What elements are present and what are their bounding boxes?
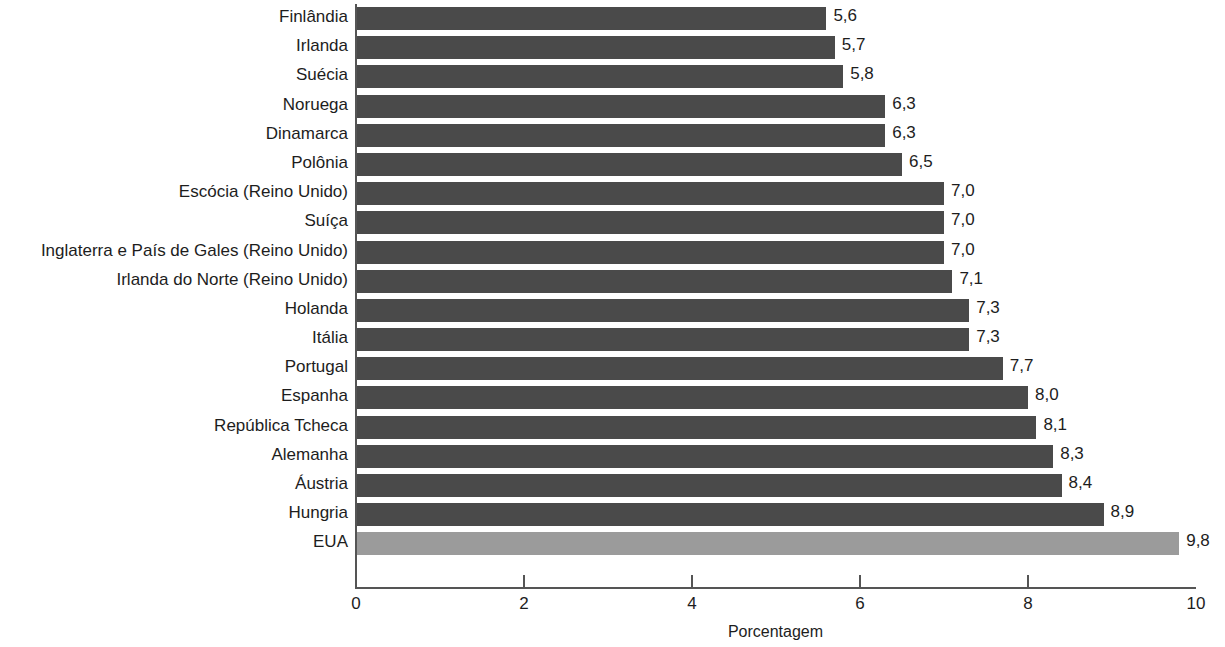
category-label: Áustria [295, 471, 348, 500]
bar-row: Áustria8,4 [0, 471, 1225, 500]
bar-value-label: 6,3 [885, 122, 916, 144]
category-label: Irlanda [296, 33, 348, 62]
bar-value-label: 7,0 [944, 180, 975, 202]
bar-container [356, 357, 1003, 380]
bar-value-label: 8,4 [1062, 472, 1093, 494]
bar-container [356, 65, 843, 88]
bar-value-label: 6,3 [885, 93, 916, 115]
bar-row: Hungria8,9 [0, 500, 1225, 529]
bar-row: Espanha8,0 [0, 383, 1225, 412]
x-axis-tick [691, 575, 693, 588]
bar-value-label: 7,0 [944, 239, 975, 261]
bar-container [356, 474, 1062, 497]
x-axis-tick-label: 2 [519, 594, 528, 614]
bar-container [356, 7, 826, 30]
category-label: Holanda [285, 296, 348, 325]
bar [356, 241, 944, 264]
bar [356, 124, 885, 147]
bar-value-label: 7,7 [1003, 355, 1034, 377]
bar-row: Escócia (Reino Unido)7,0 [0, 179, 1225, 208]
category-label: Finlândia [279, 4, 348, 33]
bar-value-label: 9,8 [1179, 530, 1210, 552]
category-label: EUA [313, 529, 348, 558]
bar [356, 328, 969, 351]
bar [356, 95, 885, 118]
bar-value-label: 8,9 [1104, 501, 1135, 523]
bar-container [356, 386, 1028, 409]
bar-row: Portugal7,7 [0, 354, 1225, 383]
bar-value-label: 8,0 [1028, 384, 1059, 406]
bar-value-label: 5,6 [826, 5, 857, 27]
x-axis-tick-label: 8 [1023, 594, 1032, 614]
bar [356, 270, 952, 293]
bar-container [356, 36, 835, 59]
bar [356, 36, 835, 59]
x-axis-tick [1027, 575, 1029, 588]
bar-container [356, 182, 944, 205]
bar [356, 299, 969, 322]
bar [356, 445, 1053, 468]
category-label: Suíça [305, 208, 348, 237]
bar-container [356, 211, 944, 234]
bar-row: Suécia5,8 [0, 62, 1225, 91]
bar-container [356, 328, 969, 351]
x-axis-tick [859, 575, 861, 588]
bar-container [356, 416, 1036, 439]
category-label: Espanha [281, 383, 348, 412]
category-label: Hungria [288, 500, 348, 529]
bar-row: República Tcheca8,1 [0, 413, 1225, 442]
category-label: Suécia [296, 62, 348, 91]
bar-container [356, 270, 952, 293]
bar-rows: Finlândia5,6Irlanda5,7Suécia5,8Noruega6,… [0, 4, 1225, 559]
category-label: Dinamarca [266, 121, 348, 150]
category-label: Portugal [285, 354, 348, 383]
bar-row: Suíça7,0 [0, 208, 1225, 237]
category-label: Noruega [283, 92, 348, 121]
y-axis-line [355, 4, 357, 588]
bar [356, 182, 944, 205]
bar [356, 357, 1003, 380]
bar-value-label: 8,3 [1053, 443, 1084, 465]
bar-value-label: 7,0 [944, 209, 975, 231]
bar-row: Holanda7,3 [0, 296, 1225, 325]
bar-row: Alemanha8,3 [0, 442, 1225, 471]
bar-row: Itália7,3 [0, 325, 1225, 354]
bar-chart: Finlândia5,6Irlanda5,7Suécia5,8Noruega6,… [0, 0, 1225, 647]
x-axis-tick [523, 575, 525, 588]
bar-value-label: 7,3 [969, 297, 1000, 319]
bar [356, 65, 843, 88]
x-axis-tick-label: 4 [687, 594, 696, 614]
x-axis-title: Porcentagem [0, 623, 1225, 641]
bar [356, 153, 902, 176]
bar [356, 7, 826, 30]
category-label: Irlanda do Norte (Reino Unido) [116, 267, 348, 296]
bar-value-label: 7,1 [952, 268, 983, 290]
bar [356, 474, 1062, 497]
bar [356, 211, 944, 234]
bar-container [356, 124, 885, 147]
bar-container [356, 299, 969, 322]
bar-container [356, 532, 1179, 555]
bar-row: Irlanda5,7 [0, 33, 1225, 62]
bar-row: Irlanda do Norte (Reino Unido)7,1 [0, 267, 1225, 296]
bar [356, 416, 1036, 439]
bar-container [356, 153, 902, 176]
bar-row: Noruega6,3 [0, 92, 1225, 121]
x-axis-line [355, 587, 1196, 589]
category-label: República Tcheca [214, 413, 348, 442]
bar-row: Finlândia5,6 [0, 4, 1225, 33]
plot-area: Finlândia5,6Irlanda5,7Suécia5,8Noruega6,… [0, 0, 1225, 647]
bar-row: EUA9,8 [0, 529, 1225, 558]
bar [356, 503, 1104, 526]
bar [356, 386, 1028, 409]
category-label: Inglaterra e País de Gales (Reino Unido) [41, 238, 348, 267]
bar-value-label: 8,1 [1036, 414, 1067, 436]
x-axis-tick-label: 0 [351, 594, 360, 614]
bar-value-label: 5,7 [835, 34, 866, 56]
category-label: Alemanha [271, 442, 348, 471]
bar-value-label: 6,5 [902, 151, 933, 173]
bar-row: Dinamarca6,3 [0, 121, 1225, 150]
category-label: Polônia [291, 150, 348, 179]
bar-row: Polônia6,5 [0, 150, 1225, 179]
category-label: Itália [312, 325, 348, 354]
